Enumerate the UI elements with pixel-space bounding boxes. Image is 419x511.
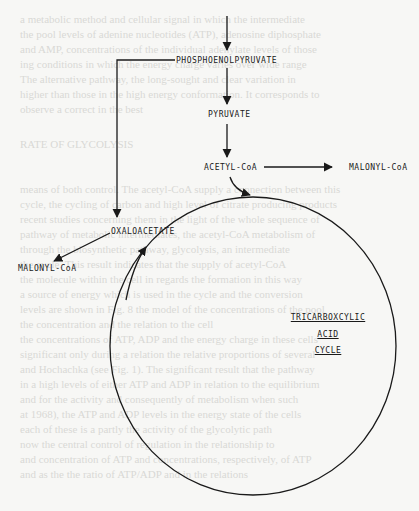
node-acetyl-coa: ACETYL-CoA <box>204 163 257 172</box>
node-phosphoenolpyruvate: PHOSPHOENOLPYRUVATE <box>176 56 277 65</box>
pathway-diagram <box>0 0 419 511</box>
arrow-cycle-to-oxaloacetate <box>126 247 146 300</box>
node-malonyl-coa-left: MALONYL-CoA <box>18 264 76 273</box>
arrow-acetyl-coa-to-cycle <box>230 177 250 195</box>
cycle-label-line1: TRICARBOXCYLIC <box>290 313 366 322</box>
arrow-oxaloacetate-to-malonyl-coa <box>54 233 110 261</box>
cycle-label-line2: ACID <box>290 330 366 339</box>
node-pyruvate: PYRUVATE <box>208 110 251 119</box>
arrow-pep-to-oxaloacetate <box>117 60 175 217</box>
node-malonyl-coa-right: MALONYL-CoA <box>349 163 407 172</box>
cycle-label-line3: CYCLE <box>290 346 366 355</box>
node-oxaloacetate: OXALOACETATE <box>111 227 175 236</box>
